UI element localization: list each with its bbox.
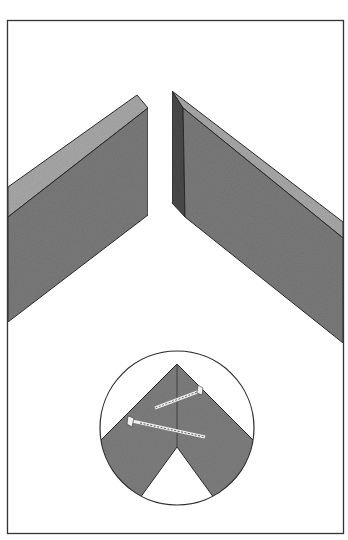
miter-joint-diagram: [0, 0, 348, 540]
